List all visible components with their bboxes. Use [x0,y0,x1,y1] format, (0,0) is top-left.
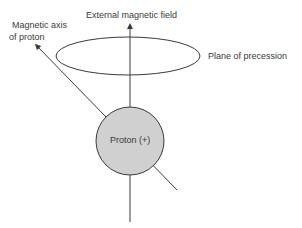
magnetic-axis-label-2: of proton [9,32,45,43]
precession-diagram [0,0,302,228]
plane-label: Plane of precession [208,51,287,62]
proton-label: Proton (+) [110,135,150,146]
magnetic-axis-label-1: Magnetic axis [12,20,67,31]
precession-ellipse [56,37,200,75]
external-field-label: External magnetic field [86,10,177,21]
